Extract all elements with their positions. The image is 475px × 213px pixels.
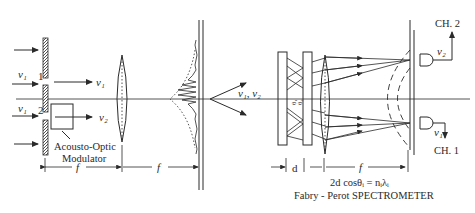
detector-ch1 [420, 117, 433, 129]
fabry-perot-diagram: ν₁ 1 ν₁ 2 ν₁ ν₂ Acousto-Optic Modulator … [0, 0, 475, 213]
label-d: d [292, 162, 298, 174]
equation: 2d cosθᵢ = nᵢλᵢ [330, 177, 389, 188]
label-nu2-out: ν₂ [99, 111, 108, 123]
label-nu1-in: ν₁ [18, 68, 27, 80]
caption-title: Fabry - Perot SPECTROMETER [294, 190, 434, 201]
label-theta2: θ₂ [296, 99, 304, 105]
label-nu1-det: ν₁ [434, 126, 443, 138]
modulator-label-2: Modulator [62, 153, 107, 164]
etalon-plate-2 [303, 52, 312, 145]
detector-ch2 [420, 54, 433, 66]
label-nu2-det: ν₂ [437, 45, 446, 57]
label-ch1: CH. 1 [434, 145, 459, 156]
etalon-plate-1 [278, 52, 287, 145]
label-nu1-in-2: ν₁ [18, 102, 27, 114]
label-slit-2: 2 [38, 104, 44, 116]
label-combined: ν₁, ν₂ [238, 87, 261, 99]
modulator-pointer [62, 131, 70, 139]
label-slit-1: 1 [38, 70, 44, 82]
label-f-2: f [157, 161, 162, 173]
diverging-beam-down [210, 99, 246, 115]
label-f-3: f [359, 161, 364, 173]
interference-pattern [170, 40, 197, 154]
modulator-label-1: Acousto-Optic [54, 141, 116, 152]
label-nu1-out: ν₁ [96, 76, 105, 88]
double-slit-mask [43, 38, 48, 155]
input-beams [12, 50, 38, 144]
label-ch2: CH. 2 [435, 18, 460, 29]
